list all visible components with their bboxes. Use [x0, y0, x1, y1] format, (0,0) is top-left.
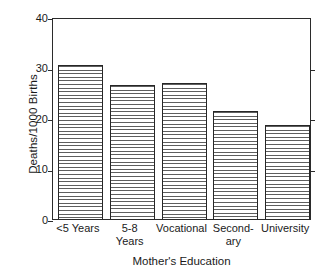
x-tick-label-line: University — [253, 222, 317, 235]
y-tick-label: 30 — [26, 63, 48, 74]
y-tick-mark-right — [310, 120, 315, 121]
bar — [58, 65, 103, 219]
bar — [213, 111, 258, 219]
y-tick-mark-left — [48, 171, 53, 172]
bar — [162, 83, 207, 219]
bar — [110, 85, 155, 219]
y-axis-tick-labels: 010203040 — [22, 0, 48, 275]
y-tick-mark-left — [48, 19, 53, 20]
y-tick-mark-right — [310, 70, 315, 71]
x-axis-title: Mother's Education — [52, 255, 311, 267]
bar-chart-figure: Deaths/1000 Births 010203040 <5 Years5-8… — [0, 0, 331, 275]
y-tick-label: 20 — [26, 114, 48, 125]
y-tick-mark-left — [48, 120, 53, 121]
x-axis-tick-labels: <5 Years5-8YearsVocationalSecond-aryUniv… — [52, 222, 311, 256]
y-tick-mark-left — [48, 70, 53, 71]
plot-area — [52, 18, 311, 220]
bars-layer — [53, 19, 310, 219]
x-tick-label-line: Years — [98, 235, 162, 248]
bar — [265, 125, 310, 219]
y-tick-label: 40 — [26, 13, 48, 24]
x-tick-label-line: ary — [201, 235, 265, 248]
x-tick-label: University — [253, 222, 317, 235]
y-tick-mark-right — [310, 171, 315, 172]
y-tick-label: 10 — [26, 164, 48, 175]
y-tick-label: 0 — [26, 215, 48, 226]
